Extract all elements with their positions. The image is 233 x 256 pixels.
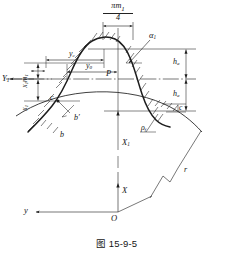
origin-label: O bbox=[111, 214, 117, 223]
profile-shift-xm-label: x1m1 bbox=[21, 74, 30, 87]
tooth-profile-curve bbox=[28, 37, 170, 132]
yc-label: yc bbox=[69, 50, 75, 59]
gear-profile-diagram bbox=[0, 0, 233, 232]
axis-X1-label: X1 bbox=[122, 138, 130, 147]
figure-caption: 图 15-9-5 bbox=[0, 236, 233, 250]
dedendum-dimension bbox=[185, 80, 188, 111]
fillet-radius-label: ρf bbox=[141, 124, 146, 133]
point-c-label: c bbox=[50, 94, 54, 102]
pressure-angle-label: α1 bbox=[149, 31, 156, 40]
axis-X-label: X bbox=[122, 186, 127, 195]
radius-r-label: r bbox=[184, 166, 187, 174]
radius-r-leader bbox=[150, 131, 201, 198]
pitch-width-label: πm1 4 bbox=[103, 2, 133, 22]
clearance-label: c bbox=[179, 104, 182, 112]
axis-y-label: y bbox=[24, 206, 28, 215]
addendum-dimension bbox=[185, 50, 188, 79]
point-b-prime-label: b′ bbox=[74, 114, 80, 122]
y0-label: y0 bbox=[86, 62, 92, 71]
left-hatching bbox=[28, 40, 91, 131]
dedendum-label: ha bbox=[173, 90, 179, 99]
left-root-hatching bbox=[41, 120, 58, 133]
pitch-point-label: P bbox=[106, 69, 111, 78]
profile-shift-x-label: x1 bbox=[21, 105, 30, 111]
origin-axes bbox=[36, 196, 152, 212]
figure-root: πm1 4 α1 yc y0 P ha ha Y1 x1m1 x1 c b′ bbox=[0, 0, 233, 256]
point-markers bbox=[57, 100, 75, 118]
point-b-label: b bbox=[60, 131, 64, 139]
vertical-center-axis bbox=[116, 28, 119, 212]
axis-Y1-label: Y1 bbox=[2, 74, 9, 83]
addendum-label: ha bbox=[173, 58, 179, 67]
right-hatching bbox=[126, 46, 163, 121]
